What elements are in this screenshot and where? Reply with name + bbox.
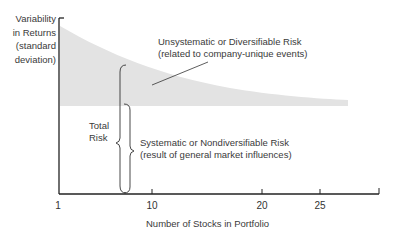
x-axis-label: Number of Stocks in Portfolio	[146, 218, 269, 230]
systematic-risk-brace	[124, 104, 134, 193]
x-tick-20: 20	[256, 200, 267, 211]
x-tick-25: 25	[314, 200, 325, 211]
y-axis-label: Variability in Returns (standard deviati…	[4, 12, 56, 66]
x-tick-1: 1	[55, 200, 61, 211]
unsystematic-risk-label: Unsystematic or Diversifiable Risk (rela…	[158, 36, 307, 60]
x-tick-10: 10	[146, 200, 157, 211]
systematic-risk-label: Systematic or Nondiversifiable Risk (res…	[140, 137, 292, 161]
total-risk-label: Total Risk	[89, 120, 109, 144]
